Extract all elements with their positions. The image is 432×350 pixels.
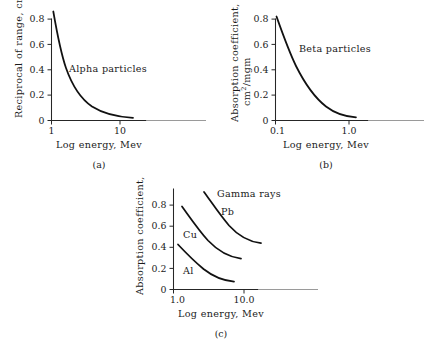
- chart-a-xtick-1: 10: [114, 125, 126, 136]
- chart-b-y-ticks: [272, 19, 276, 120]
- chart-c-y-ticks: [170, 205, 174, 289]
- chart-c-ylabel: Absorption coefficient, cm-1: [133, 175, 145, 296]
- chart-c-ytick-1: 0.2: [152, 263, 167, 274]
- chart-a-svg: Reciprocal of range, cm-1 0 0.2 0.4 0.6 …: [0, 0, 216, 175]
- chart-b-caption: (b): [319, 159, 332, 170]
- chart-c-annotation-gamma-rays: Gamma rays: [217, 188, 281, 199]
- chart-c-xtick-1: 10.0: [234, 294, 255, 305]
- figure-sheet: Reciprocal of range, cm-1 0 0.2 0.4 0.6 …: [0, 0, 432, 350]
- chart-panel-a: Reciprocal of range, cm-1 0 0.2 0.4 0.6 …: [0, 0, 216, 175]
- chart-c-caption: (c): [215, 328, 228, 339]
- chart-c-annotation-pb: Pb: [221, 206, 234, 217]
- chart-b-ytick-3: 0.6: [254, 39, 269, 50]
- chart-a-ytick-0: 0: [39, 115, 45, 126]
- chart-c-ytick-0: 0: [161, 284, 167, 295]
- chart-c-ytick-3: 0.6: [152, 220, 167, 231]
- chart-b-xtick-0: 0.1: [270, 125, 285, 136]
- chart-a-xlabel: Log energy, Mev: [56, 139, 142, 150]
- chart-c-curve-pb: [204, 192, 261, 243]
- chart-a-annotation-alpha: Alpha particles: [68, 63, 147, 74]
- chart-b-curve-beta: [277, 17, 357, 118]
- chart-a-xtick-0: 1: [49, 125, 55, 136]
- chart-c-xlabel: Log energy, Mev: [178, 308, 264, 319]
- chart-b-xlabel: Log energy, Mev: [283, 139, 369, 150]
- chart-b-ytick-4: 0.8: [254, 13, 269, 24]
- chart-b-annotation-beta: Beta particles: [299, 43, 371, 54]
- chart-panel-c: Absorption coefficient, cm-1 0 0.2 0.4 0…: [128, 175, 328, 350]
- chart-c-curve-al: [178, 245, 234, 282]
- chart-a-ytick-2: 0.4: [30, 64, 45, 75]
- chart-c-annotation-cu: Cu: [183, 229, 197, 240]
- chart-c-ytick-4: 0.8: [152, 199, 167, 210]
- chart-a-caption: (a): [93, 159, 106, 170]
- chart-panel-b: Absorption coefficient, cm2/mgm 0 0.2 0.…: [216, 0, 432, 175]
- chart-c-annotation-al: Al: [182, 265, 194, 276]
- chart-c-ytick-2: 0.4: [152, 241, 167, 252]
- chart-c-xtick-0: 1.0: [170, 294, 185, 305]
- chart-a-ytick-4: 0.8: [30, 13, 45, 24]
- chart-b-ytick-1: 0.2: [254, 89, 269, 100]
- chart-b-svg: Absorption coefficient, cm2/mgm 0 0.2 0.…: [216, 0, 432, 175]
- chart-b-xtick-1: 1.0: [342, 125, 357, 136]
- chart-a-y-ticks: [48, 19, 52, 120]
- chart-b-ytick-0: 0: [263, 115, 269, 126]
- chart-b-ylabel-line2: cm2/mgm: [240, 57, 252, 106]
- chart-b-x-ticks: [276, 121, 350, 125]
- chart-a-x-ticks: [52, 121, 121, 125]
- chart-b-ytick-2: 0.4: [254, 64, 269, 75]
- chart-a-ytick-3: 0.6: [30, 39, 45, 50]
- chart-b-axes: [276, 19, 369, 121]
- chart-a-ylabel: Reciprocal of range, cm-1: [12, 0, 24, 118]
- chart-c-svg: Absorption coefficient, cm-1 0 0.2 0.4 0…: [128, 175, 328, 350]
- chart-a-ytick-1: 0.2: [30, 89, 45, 100]
- chart-b-ylabel-line1: Absorption coefficient,: [229, 3, 240, 123]
